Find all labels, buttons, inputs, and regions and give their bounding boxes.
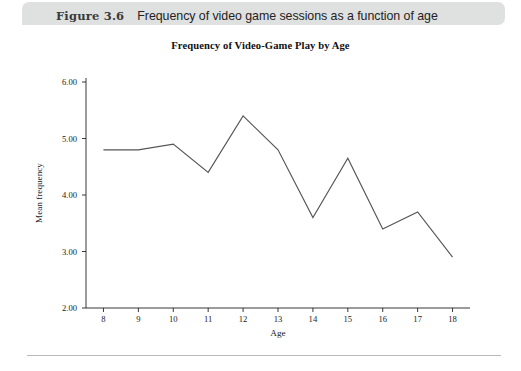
x-tick-label: 11 <box>204 314 212 324</box>
x-tick-label: 16 <box>378 314 387 324</box>
chart-region: Frequency of Video-Game Play by Age 6.00… <box>0 26 521 346</box>
line-chart-plot: 6.005.004.003.002.00 8910111213141516171… <box>0 26 521 346</box>
x-tick-label: 12 <box>239 314 248 324</box>
x-axis-ticks: 89101112131415161718 <box>101 308 457 324</box>
x-tick-label: 15 <box>344 314 353 324</box>
figure-number-label: Figure 3.6 <box>56 9 124 23</box>
x-tick-label: 17 <box>413 314 422 324</box>
y-tick-label: 4.00 <box>62 190 77 200</box>
x-tick-label: 14 <box>309 314 318 324</box>
y-tick-label: 2.00 <box>62 303 77 313</box>
x-tick-label: 9 <box>136 314 140 324</box>
y-axis-ticks: 6.005.004.003.002.00 <box>62 77 86 313</box>
y-tick-label: 5.00 <box>62 134 77 144</box>
y-tick-label: 6.00 <box>62 77 77 87</box>
bottom-divider-rule <box>27 355 501 356</box>
x-tick-label: 10 <box>169 314 178 324</box>
x-axis-title: Age <box>270 328 285 338</box>
x-tick-label: 13 <box>274 314 283 324</box>
x-tick-label: 18 <box>448 314 457 324</box>
figure-caption-band: Figure 3.6 Frequency of video game sessi… <box>22 2 505 25</box>
y-axis-title: Mean frequency <box>34 163 44 223</box>
figure-caption-inner: Figure 3.6 Frequency of video game sessi… <box>56 6 521 26</box>
figure-caption-text: Frequency of video game sessions as a fu… <box>137 9 437 23</box>
y-tick-label: 3.00 <box>62 247 77 257</box>
data-series-line <box>103 116 452 257</box>
x-tick-label: 8 <box>101 314 105 324</box>
